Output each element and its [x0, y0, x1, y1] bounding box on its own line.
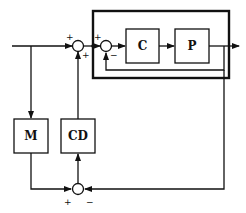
- model-block: M: [14, 119, 48, 153]
- bottom-sum-minus-sign: −: [86, 197, 94, 207]
- block-diagram: + + + − C P M + − CD: [0, 0, 246, 213]
- outer-sum-plus-sign: +: [66, 32, 74, 42]
- outer-sum-plus-sign-2: +: [82, 50, 90, 60]
- inner-sum-plus-sign: +: [94, 32, 102, 42]
- bottom-sum-plus-sign: +: [64, 197, 72, 207]
- bottom-summing-junction: [73, 184, 84, 195]
- disturbance-compensator-block: CD: [61, 119, 95, 153]
- output-feedback-line: [85, 70, 224, 189]
- plant-block: P: [175, 29, 209, 63]
- model-label: M: [24, 129, 37, 143]
- controller-block: C: [126, 29, 159, 63]
- model-to-sum-line: [31, 153, 71, 189]
- boundary-node: [91, 44, 95, 48]
- inner-sum-minus-sign: −: [110, 50, 118, 60]
- plant-label: P: [187, 39, 196, 53]
- controller-label: C: [138, 39, 148, 53]
- disturbance-compensator-label: CD: [68, 129, 88, 143]
